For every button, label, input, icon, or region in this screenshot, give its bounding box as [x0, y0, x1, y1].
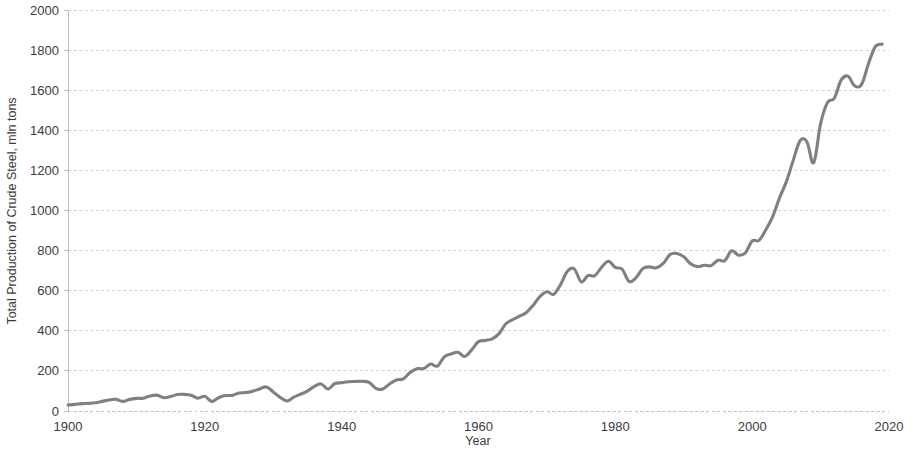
x-axis-title: Year [465, 434, 490, 448]
y-tick-label-1000: 1000 [30, 203, 59, 218]
x-tick-label-2000: 2000 [738, 419, 767, 434]
gridlines-group [68, 10, 889, 411]
y-tick-label-1600: 1600 [30, 83, 59, 98]
y-tick-label-1800: 1800 [30, 43, 59, 58]
y-tick-label-0: 0 [52, 404, 59, 419]
y-tick-label-200: 200 [37, 363, 59, 378]
x-axis-ticks-group: 1900192019401960198020002020 [54, 419, 904, 434]
x-tick-label-2020: 2020 [875, 419, 904, 434]
series-line-0 [68, 44, 882, 405]
y-tick-label-1200: 1200 [30, 163, 59, 178]
y-axis-ticks-group: 0200400600800100012001400160018002000 [30, 3, 68, 419]
y-tick-label-1400: 1400 [30, 123, 59, 138]
y-tick-label-600: 600 [37, 283, 59, 298]
x-tick-label-1960: 1960 [464, 419, 493, 434]
x-tick-label-1980: 1980 [601, 419, 630, 434]
x-tick-label-1920: 1920 [190, 419, 219, 434]
x-tick-label-1940: 1940 [327, 419, 356, 434]
y-tick-label-800: 800 [37, 243, 59, 258]
y-axis-title: Total Production of Crude Steel, mln ton… [5, 97, 19, 324]
chart-canvas: 0200400600800100012001400160018002000 19… [0, 0, 913, 449]
data-series-group [68, 44, 882, 405]
y-tick-label-2000: 2000 [30, 3, 59, 18]
x-tick-label-1900: 1900 [54, 419, 83, 434]
crude-steel-production-chart: 0200400600800100012001400160018002000 19… [0, 0, 913, 449]
y-tick-label-400: 400 [37, 323, 59, 338]
